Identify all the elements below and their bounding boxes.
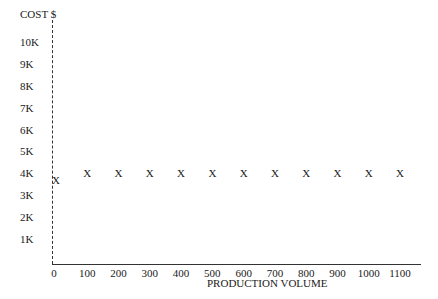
data-point-marker: X [177, 168, 185, 179]
y-tick-label: 2K [20, 212, 33, 223]
y-axis-line [52, 20, 53, 264]
data-point-marker: X [240, 168, 248, 179]
data-point-marker: X [83, 168, 91, 179]
y-tick-label: 5K [20, 146, 33, 157]
cost-chart: COST $ 1K2K3K4K5K6K7K8K9K10K 01002003004… [0, 0, 438, 299]
data-point-marker: X [146, 168, 154, 179]
data-point-marker: X [115, 168, 123, 179]
data-point-marker: X [271, 168, 279, 179]
x-tick-label: 1100 [389, 268, 411, 279]
x-axis-line [52, 264, 421, 265]
y-tick-label: 9K [20, 59, 33, 70]
x-tick-label: 300 [142, 268, 159, 279]
y-axis-title: COST $ [20, 9, 56, 20]
data-point-marker: X [52, 174, 60, 185]
x-tick-label: 0 [51, 268, 57, 279]
y-tick-label: 7K [20, 103, 33, 114]
data-point-marker: X [396, 168, 404, 179]
x-tick-label: 400 [173, 268, 190, 279]
data-point-marker: X [208, 168, 216, 179]
data-point-marker: X [365, 168, 373, 179]
x-tick-label: 900 [329, 268, 346, 279]
y-tick-label: 8K [20, 81, 33, 92]
y-tick-label: 4K [20, 168, 33, 179]
x-tick-label: 100 [79, 268, 96, 279]
y-tick-label: 1K [20, 234, 33, 245]
y-tick-label: 6K [20, 125, 33, 136]
y-tick-label: 3K [20, 190, 33, 201]
data-point-marker: X [302, 168, 310, 179]
x-tick-label: 1000 [358, 268, 380, 279]
x-axis-title: PRODUCTION VOLUME [207, 278, 328, 289]
y-tick-label: 10K [20, 37, 39, 48]
x-tick-label: 200 [110, 268, 127, 279]
data-point-marker: X [333, 168, 341, 179]
